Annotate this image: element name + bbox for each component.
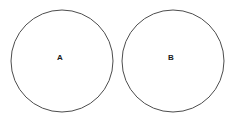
circle-a-label: A [57,54,63,62]
diagram-canvas: A B [0,0,237,123]
two-circle-diagram [0,0,237,123]
circle-b-label: B [168,54,174,62]
